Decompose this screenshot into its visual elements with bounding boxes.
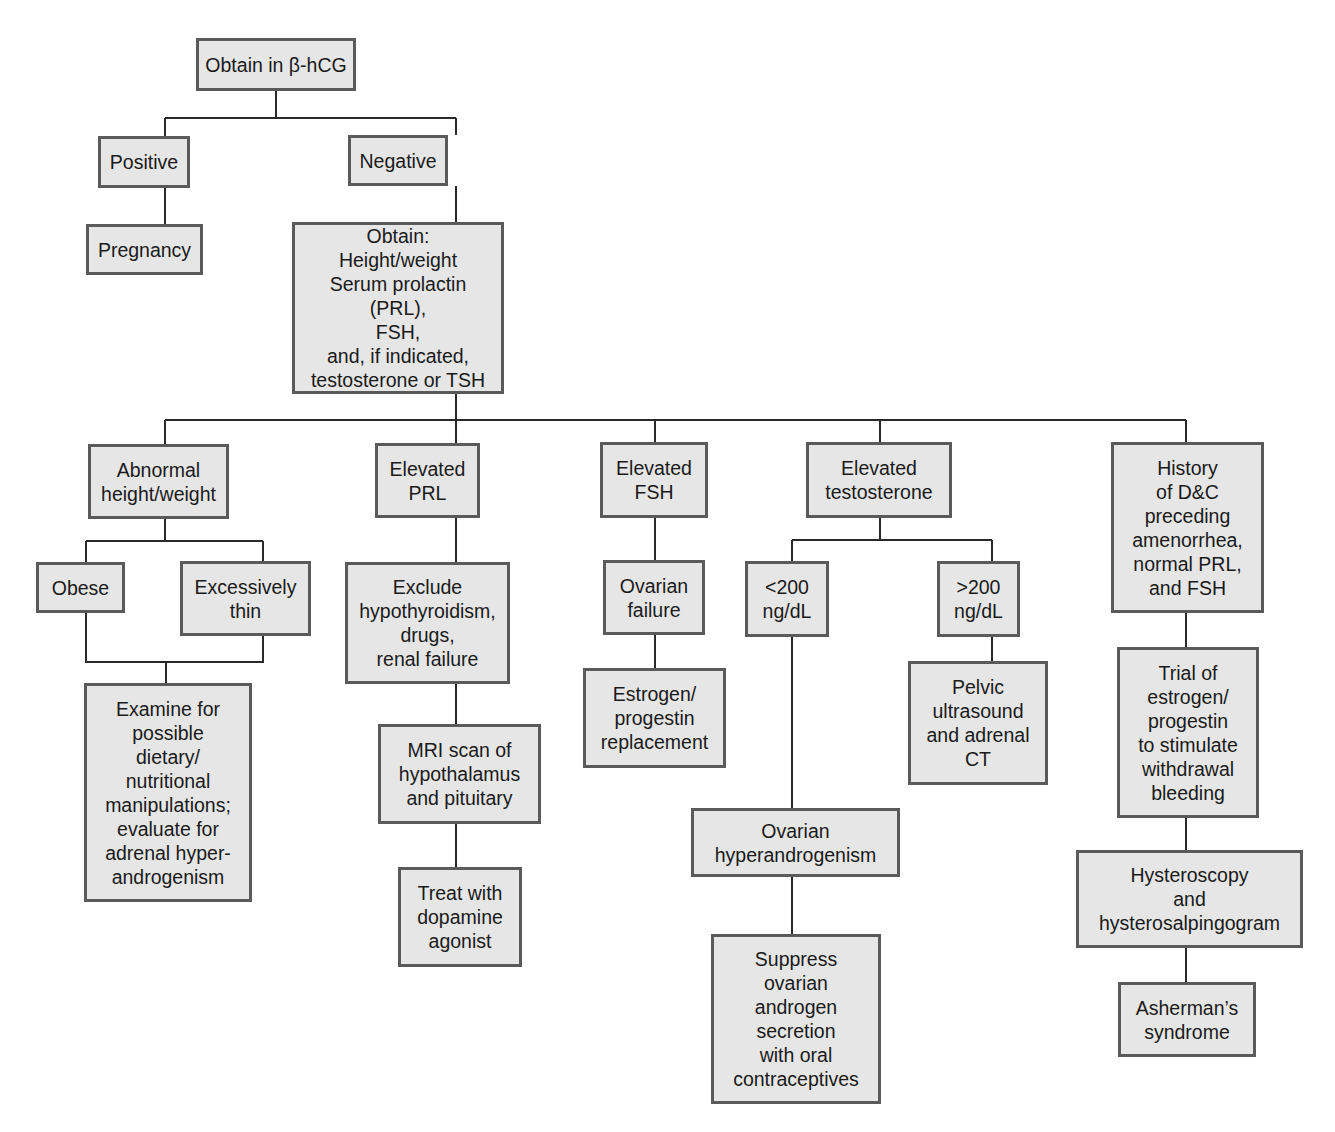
node-label: Elevated PRL — [390, 457, 466, 505]
node-thin: Excessively thin — [180, 561, 311, 636]
node-estrogen-replacement: Estrogen/ progestin replacement — [583, 668, 726, 768]
connector-line — [165, 91, 456, 136]
node-examine: Examine for possible dietary/ nutritiona… — [84, 683, 252, 902]
connector-line — [165, 394, 1186, 444]
node-start: Obtain in β-hCG — [196, 38, 356, 91]
node-ovarian-hyperandrogenism: Ovarian hyperandrogenism — [691, 808, 900, 877]
node-label: Estrogen/ progestin replacement — [601, 682, 708, 754]
node-label: Excessively thin — [195, 575, 297, 623]
node-label: Exclude hypothyroidism, drugs, renal fai… — [359, 575, 496, 671]
node-label: Obtain in β-hCG — [205, 53, 346, 77]
node-ovarian-failure: Ovarian failure — [603, 560, 705, 635]
node-elevated-testosterone: Elevated testosterone — [806, 442, 952, 518]
node-label: Abnormal height/weight — [101, 458, 216, 506]
node-obese: Obese — [36, 562, 125, 613]
node-label: Obtain: Height/weight Serum prolactin (P… — [299, 224, 497, 392]
node-pregnancy: Pregnancy — [86, 224, 203, 275]
node-label: Elevated testosterone — [825, 456, 932, 504]
node-label: Treat with dopamine agonist — [417, 881, 503, 953]
flowchart-canvas: Obtain in β-hCGPositiveNegativePregnancy… — [0, 0, 1335, 1132]
node-label: <200 ng/dL — [763, 575, 812, 623]
node-label: Trial of estrogen/ progestin to stimulat… — [1138, 661, 1238, 805]
node-label: Suppress ovarian androgen secretion with… — [733, 947, 859, 1091]
node-positive: Positive — [98, 136, 190, 188]
node-treat: Treat with dopamine agonist — [398, 867, 522, 967]
node-label: Obese — [52, 576, 109, 600]
node-label: Hysteroscopy and hysterosalpingogram — [1099, 863, 1280, 935]
node-lt200: <200 ng/dL — [745, 561, 829, 637]
node-history-dc: History of D&C preceding amenorrhea, nor… — [1111, 442, 1264, 613]
node-obtain: Obtain: Height/weight Serum prolactin (P… — [292, 222, 504, 394]
node-negative: Negative — [348, 135, 448, 186]
node-abnormal: Abnormal height/weight — [88, 444, 229, 519]
node-label: >200 ng/dL — [954, 575, 1003, 623]
node-label: Positive — [110, 150, 178, 174]
node-exclude: Exclude hypothyroidism, drugs, renal fai… — [345, 562, 510, 684]
node-trial: Trial of estrogen/ progestin to stimulat… — [1117, 647, 1259, 818]
node-label: Asherman’s syndrome — [1136, 996, 1239, 1044]
node-label: Ovarian failure — [620, 574, 688, 622]
node-mri: MRI scan of hypothalamus and pituitary — [378, 724, 541, 824]
node-label: Pregnancy — [98, 238, 191, 262]
node-label: Elevated FSH — [616, 456, 692, 504]
node-gt200: >200 ng/dL — [937, 561, 1020, 637]
connector-line — [792, 518, 992, 561]
node-label: Ovarian hyperandrogenism — [715, 819, 877, 867]
node-pelvic: Pelvic ultrasound and adrenal CT — [908, 661, 1048, 785]
node-label: MRI scan of hypothalamus and pituitary — [399, 738, 520, 810]
node-label: Pelvic ultrasound and adrenal CT — [926, 675, 1029, 771]
node-elevated-fsh: Elevated FSH — [600, 442, 708, 518]
node-suppress: Suppress ovarian androgen secretion with… — [711, 934, 881, 1104]
node-label: Examine for possible dietary/ nutritiona… — [105, 697, 231, 889]
connector-line — [86, 519, 263, 562]
node-elevated-prl: Elevated PRL — [375, 443, 480, 518]
node-label: History of D&C preceding amenorrhea, nor… — [1132, 456, 1243, 600]
node-hysteroscopy: Hysteroscopy and hysterosalpingogram — [1076, 850, 1303, 948]
node-label: Negative — [360, 149, 437, 173]
node-asherman: Asherman’s syndrome — [1118, 982, 1256, 1057]
